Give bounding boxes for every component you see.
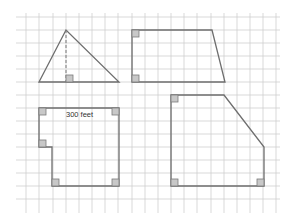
right-angle-marker-icon: [132, 30, 139, 37]
right-angle-marker-icon: [66, 75, 73, 82]
right-angle-marker-icon: [39, 108, 46, 115]
grid-figure: 300 feet: [0, 0, 303, 223]
right-angle-marker-icon: [112, 108, 119, 115]
right-angle-marker-icon: [52, 179, 59, 186]
dimension-label: 300 feet: [66, 110, 94, 119]
right-angle-marker-icon: [257, 179, 264, 186]
right-angle-marker-icon: [171, 95, 178, 102]
right-angle-marker-icon: [132, 75, 139, 82]
right-angle-marker-icon: [171, 179, 178, 186]
right-angle-marker-icon: [39, 140, 46, 147]
right-angle-marker-icon: [112, 179, 119, 186]
